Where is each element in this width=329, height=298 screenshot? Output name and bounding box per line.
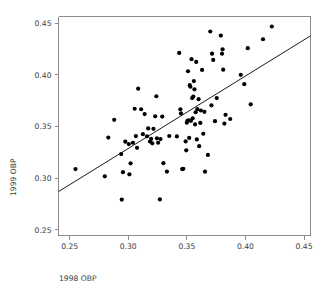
data-point: [158, 197, 162, 201]
data-point: [246, 46, 250, 50]
data-point: [203, 170, 207, 174]
data-point: [103, 174, 107, 178]
data-point: [222, 122, 226, 126]
data-point: [133, 107, 137, 111]
data-point: [220, 47, 224, 51]
y-tick-label: 0.25: [35, 226, 52, 235]
data-point: [184, 139, 188, 143]
x-tick-label: 0.25: [61, 242, 78, 251]
data-point: [184, 148, 188, 152]
data-point: [153, 114, 157, 118]
y-tick-label: 0.35: [35, 122, 52, 131]
data-point: [188, 85, 192, 89]
data-point: [127, 172, 131, 176]
data-point: [228, 117, 232, 121]
x-tick-label: 0.40: [237, 242, 254, 251]
data-point: [208, 29, 212, 33]
data-point: [186, 69, 190, 73]
x-tick-label: 0.35: [178, 242, 195, 251]
data-point: [112, 118, 116, 122]
data-point: [73, 167, 77, 171]
data-point: [221, 68, 225, 72]
y-axis-title: 1999 OBP: [9, 158, 18, 196]
data-point: [156, 141, 160, 145]
data-point: [141, 132, 145, 136]
data-point: [189, 57, 193, 61]
data-point: [191, 116, 195, 120]
data-point: [197, 144, 201, 148]
x-tick-label: 0.30: [120, 242, 137, 251]
data-point: [127, 142, 131, 146]
data-point: [200, 68, 204, 72]
data-point: [121, 170, 125, 174]
data-point: [178, 107, 182, 111]
figure-background: [0, 0, 329, 298]
data-point: [167, 134, 171, 138]
x-tick-label: 0.45: [296, 242, 313, 251]
y-tick-label: 0.45: [35, 19, 52, 28]
data-point: [209, 103, 213, 107]
data-point: [177, 51, 181, 55]
data-point: [120, 197, 124, 201]
scatter-plot-figure: 0.250.300.350.400.45 0.250.300.350.400.4…: [0, 0, 329, 298]
data-point: [160, 114, 164, 118]
data-point: [198, 121, 202, 125]
data-point: [192, 79, 196, 83]
data-point: [223, 113, 227, 117]
data-point: [215, 96, 219, 100]
y-tick-label: 0.40: [35, 71, 52, 80]
plot-canvas: 0.250.300.350.400.45 0.250.300.350.400.4…: [0, 0, 329, 298]
data-point: [149, 137, 153, 141]
data-point: [202, 110, 206, 114]
data-point: [175, 134, 179, 138]
data-point: [213, 119, 217, 123]
data-point: [128, 161, 132, 165]
data-point: [146, 126, 150, 130]
data-point: [187, 136, 191, 140]
data-point: [135, 146, 139, 150]
data-point: [270, 24, 274, 28]
data-point: [158, 137, 162, 141]
y-tick-label: 0.30: [35, 174, 52, 183]
data-point: [181, 167, 185, 171]
data-point: [139, 107, 143, 111]
data-point: [192, 87, 196, 91]
data-point: [249, 102, 253, 106]
data-point: [151, 127, 155, 131]
data-point: [136, 87, 140, 91]
data-point: [123, 140, 127, 144]
data-point: [201, 132, 205, 136]
data-point: [134, 134, 138, 138]
data-point: [211, 58, 215, 62]
data-point: [219, 34, 223, 38]
data-point: [239, 73, 243, 77]
data-point: [196, 97, 200, 101]
data-point: [194, 60, 198, 64]
data-point: [143, 112, 147, 116]
data-point: [261, 37, 265, 41]
data-point: [206, 153, 210, 157]
data-point: [220, 52, 224, 56]
data-point: [165, 169, 169, 173]
data-point: [161, 161, 165, 165]
data-point: [191, 94, 195, 98]
data-point: [106, 135, 110, 139]
data-point: [150, 141, 154, 145]
data-point: [242, 82, 246, 86]
data-point: [154, 94, 158, 98]
data-point: [210, 52, 214, 56]
data-point: [195, 137, 199, 141]
data-point: [155, 136, 159, 140]
x-axis-title: 1998 OBP: [59, 274, 97, 283]
data-point: [193, 122, 197, 126]
